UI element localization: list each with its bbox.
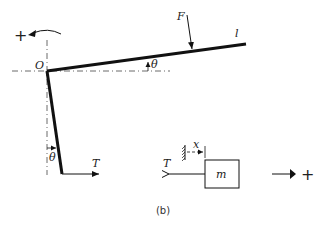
beam-theta-label: θ bbox=[151, 58, 158, 71]
force-arrow bbox=[187, 15, 192, 49]
force-label: F bbox=[176, 10, 185, 23]
beam bbox=[47, 44, 246, 71]
tension-right-label: T bbox=[92, 157, 101, 170]
positive-rotation-label: + bbox=[14, 26, 27, 45]
wall-hatch-icon bbox=[182, 145, 185, 161]
positive-translation-label: + bbox=[301, 165, 314, 184]
mass-label: m bbox=[216, 168, 226, 181]
pendulum-theta-label: θ bbox=[49, 151, 56, 164]
tension-left-label: T bbox=[163, 157, 172, 170]
origin-label: O bbox=[35, 59, 44, 72]
displacement-label: x bbox=[193, 138, 200, 151]
length-label: l bbox=[235, 27, 239, 40]
rotation-arrowhead-icon bbox=[28, 30, 36, 37]
translation-arrowhead-icon bbox=[290, 169, 296, 179]
mechanical-diagram: + O F l θ θ T x m T + (b) bbox=[0, 0, 327, 226]
figure-caption: (b) bbox=[156, 205, 170, 216]
rotation-arrow-icon bbox=[33, 30, 61, 34]
